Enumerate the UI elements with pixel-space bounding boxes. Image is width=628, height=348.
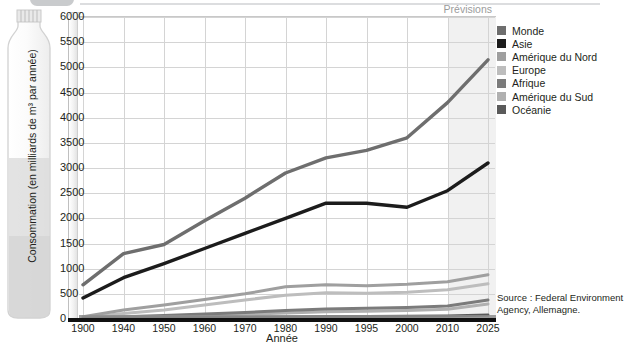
legend-swatch: [497, 105, 506, 114]
plot-area: Prévisions 05001000150020002500300035004…: [68, 16, 496, 318]
y-tick-label: 500: [60, 287, 64, 299]
y-tick-label: 3000: [60, 161, 64, 173]
legend-swatch: [497, 79, 506, 88]
y-tick-label: 0: [60, 312, 64, 324]
legend-item[interactable]: Amérique du Sud: [497, 90, 625, 103]
forecast-label: Prévisions: [444, 3, 492, 15]
legend-item[interactable]: Océanie: [497, 103, 625, 116]
legend-item[interactable]: Asie: [497, 37, 625, 50]
legend-label: Amérique du Sud: [512, 91, 593, 103]
y-tick-label: 3500: [60, 136, 64, 148]
y-tick-label: 2500: [60, 186, 64, 198]
legend-label: Océanie: [512, 104, 551, 116]
y-tick-label: 6000: [60, 10, 64, 22]
legend-item[interactable]: Amérique du Nord: [497, 50, 625, 63]
legend-label: Asie: [512, 38, 532, 50]
legend-label: Monde: [512, 25, 544, 37]
legend-swatch: [497, 26, 506, 35]
chart-page: Consommation (en milliards de m³ par ann…: [0, 0, 628, 348]
legend-swatch: [497, 52, 506, 61]
source-note: Source : Federal Environment Agency, All…: [497, 292, 628, 316]
y-tick-label: 4500: [60, 86, 64, 98]
y-tick-label: 1500: [60, 237, 64, 249]
series-lines: [79, 17, 496, 319]
legend-label: Europe: [512, 64, 546, 76]
series-line: [83, 163, 488, 298]
y-tick-label: 4000: [60, 111, 64, 123]
chart-legend: MondeAsieAmérique du NordEuropeAfriqueAm…: [497, 24, 625, 116]
legend-item[interactable]: Afrique: [497, 77, 625, 90]
y-tick-label: 1000: [60, 262, 64, 274]
source-line-2: Agency, Allemagne.: [497, 304, 628, 316]
y-tick-label: 2000: [60, 211, 64, 223]
legend-label: Afrique: [512, 77, 545, 89]
legend-swatch: [497, 39, 506, 48]
page-header-strip: [0, 0, 628, 10]
grid-area: Prévisions: [79, 16, 496, 318]
header-rule: [80, 3, 600, 5]
y-axis-title: Consommation (en milliards de m³ par ann…: [26, 6, 38, 306]
y-tick-label: 5000: [60, 60, 64, 72]
legend-label: Amérique du Nord: [512, 51, 597, 63]
legend-item[interactable]: Europe: [497, 64, 625, 77]
series-line: [83, 60, 488, 285]
y-tick-label: 5500: [60, 35, 64, 47]
legend-item[interactable]: Monde: [497, 24, 625, 37]
legend-swatch: [497, 66, 506, 75]
legend-swatch: [497, 92, 506, 101]
x-axis-title: Année: [68, 332, 496, 344]
source-line-1: Source : Federal Environment: [497, 292, 628, 304]
